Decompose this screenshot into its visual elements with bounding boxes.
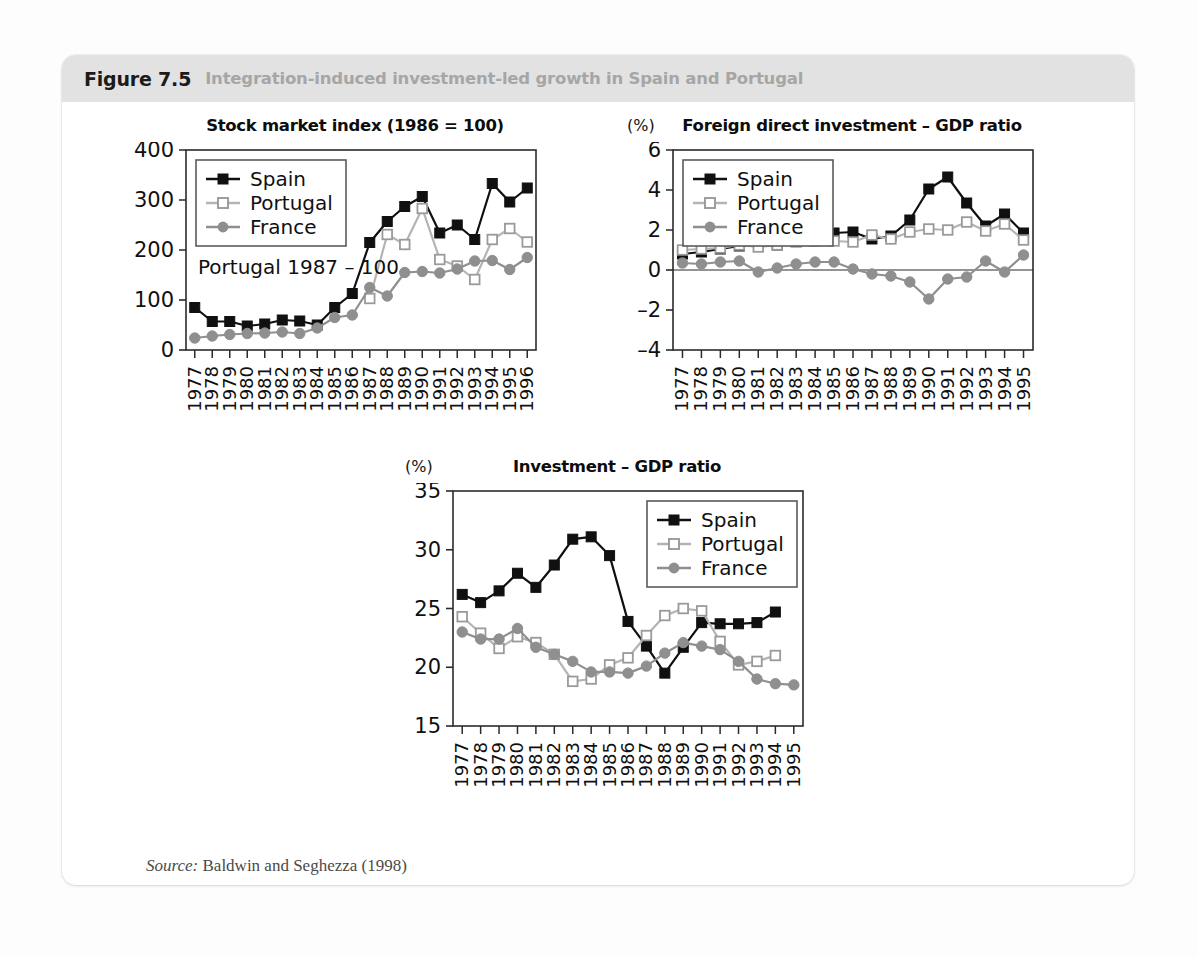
svg-text:–2: –2 xyxy=(637,298,661,322)
svg-text:0: 0 xyxy=(161,338,174,362)
figure-card: Figure 7.5 Integration-induced investmen… xyxy=(62,55,1134,885)
chart-svg-stock-market: 0100200300400197719781979198019811982198… xyxy=(120,142,590,442)
svg-text:1981: 1981 xyxy=(747,366,768,412)
chart-svg-investment: 1520253035197719781979198019811982198319… xyxy=(397,483,837,813)
svg-text:1994: 1994 xyxy=(994,366,1015,412)
svg-text:25: 25 xyxy=(414,597,441,621)
svg-text:1995: 1995 xyxy=(783,742,804,788)
svg-text:Spain: Spain xyxy=(701,508,757,532)
svg-text:Portugal: Portugal xyxy=(250,191,333,215)
chart-title-fdi: Foreign direct investment – GDP ratio xyxy=(617,116,1087,142)
svg-text:1986: 1986 xyxy=(842,366,863,412)
svg-text:1984: 1984 xyxy=(804,366,825,412)
chart-title-investment: Investment – GDP ratio xyxy=(397,457,837,483)
figure-header: Figure 7.5 Integration-induced investmen… xyxy=(62,55,1134,102)
svg-text:300: 300 xyxy=(134,188,174,212)
source-text: Baldwin and Seghezza (1998) xyxy=(203,856,407,875)
chart-panel-investment: (%) Investment – GDP ratio 1520253035197… xyxy=(397,457,837,813)
svg-text:1989: 1989 xyxy=(899,366,920,412)
svg-text:Spain: Spain xyxy=(737,167,793,191)
svg-text:15: 15 xyxy=(414,714,441,738)
figure-body: Stock market index (1986 = 100) 01002003… xyxy=(62,102,1134,885)
svg-text:1987: 1987 xyxy=(861,366,882,412)
svg-text:France: France xyxy=(737,215,804,239)
svg-text:Portugal: Portugal xyxy=(701,532,784,556)
svg-text:30: 30 xyxy=(414,538,441,562)
svg-text:2: 2 xyxy=(648,218,661,242)
svg-text:1983: 1983 xyxy=(785,366,806,412)
svg-text:1982: 1982 xyxy=(766,366,787,412)
svg-text:1979: 1979 xyxy=(709,366,730,412)
svg-text:1980: 1980 xyxy=(728,366,749,412)
svg-text:Portugal 1987 – 100: Portugal 1987 – 100 xyxy=(198,255,399,279)
source-line: Source: Baldwin and Seghezza (1998) xyxy=(146,856,407,876)
svg-text:France: France xyxy=(701,556,768,580)
svg-text:1992: 1992 xyxy=(956,366,977,412)
svg-text:–4: –4 xyxy=(637,338,661,362)
chart-title-stock-market: Stock market index (1986 = 100) xyxy=(120,116,590,142)
svg-text:6: 6 xyxy=(648,142,661,162)
chart-unit-fdi: (%) xyxy=(627,116,655,135)
page-root: Figure 7.5 Integration-induced investmen… xyxy=(0,0,1197,957)
svg-text:Spain: Spain xyxy=(250,167,306,191)
svg-text:1977: 1977 xyxy=(671,366,692,412)
chart-svg-fdi: –4–2024619771978197919801981198219831984… xyxy=(617,142,1087,442)
svg-text:0: 0 xyxy=(648,258,661,282)
chart-unit-investment: (%) xyxy=(405,457,433,476)
svg-text:1985: 1985 xyxy=(823,366,844,412)
figure-number: Figure 7.5 xyxy=(84,68,191,90)
svg-text:1990: 1990 xyxy=(918,366,939,412)
svg-text:20: 20 xyxy=(414,655,441,679)
svg-text:1996: 1996 xyxy=(516,366,537,412)
svg-text:100: 100 xyxy=(134,288,174,312)
figure-caption: Integration-induced investment-led growt… xyxy=(205,69,803,88)
svg-text:Portugal: Portugal xyxy=(737,191,820,215)
svg-text:1991: 1991 xyxy=(937,366,958,412)
svg-text:35: 35 xyxy=(414,483,441,503)
chart-panel-fdi: (%) Foreign direct investment – GDP rati… xyxy=(617,116,1087,442)
svg-text:400: 400 xyxy=(134,142,174,162)
svg-text:1988: 1988 xyxy=(880,366,901,412)
chart-legend: SpainPortugalFrance xyxy=(683,160,833,246)
svg-text:1993: 1993 xyxy=(975,366,996,412)
chart-panel-stock-market: Stock market index (1986 = 100) 01002003… xyxy=(120,116,590,442)
source-label: Source: xyxy=(146,856,198,875)
svg-text:1995: 1995 xyxy=(1013,366,1034,412)
svg-text:4: 4 xyxy=(648,178,661,202)
chart-legend: SpainPortugalFrance xyxy=(196,160,346,246)
svg-text:200: 200 xyxy=(134,238,174,262)
svg-text:1978: 1978 xyxy=(690,366,711,412)
chart-legend: SpainPortugalFrance xyxy=(647,501,797,587)
svg-text:France: France xyxy=(250,215,317,239)
